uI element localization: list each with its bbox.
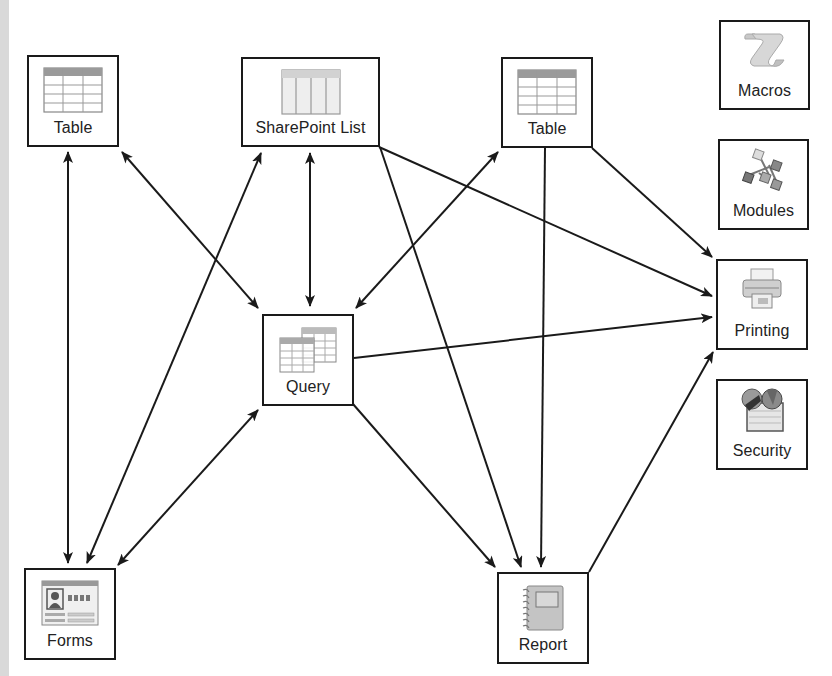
sharepoint-list-icon <box>243 69 378 115</box>
edge-forms-query <box>118 410 258 565</box>
edge-table-right-report <box>541 148 545 567</box>
form-icon <box>26 580 114 626</box>
node-label: Modules <box>733 202 794 220</box>
modules-icon <box>720 147 807 191</box>
node-label: Printing <box>734 322 789 340</box>
scroll-icon <box>721 28 808 72</box>
node-query[interactable]: Query <box>262 314 354 406</box>
node-modules[interactable]: Modules <box>718 139 809 230</box>
node-label: Macros <box>738 82 791 100</box>
table-icon <box>29 67 117 113</box>
edge-query-printing <box>354 317 712 358</box>
node-label: Table <box>528 120 567 138</box>
node-label: Report <box>519 636 568 654</box>
table-icon <box>503 69 591 115</box>
node-label: Security <box>733 442 792 460</box>
node-security[interactable]: Security <box>716 379 808 470</box>
edge-sharepoint-forms <box>87 153 261 563</box>
node-printing[interactable]: Printing <box>716 259 808 350</box>
printer-icon <box>718 267 806 313</box>
security-icon <box>718 387 806 433</box>
node-report[interactable]: Report <box>497 572 589 664</box>
node-table-left[interactable]: Table <box>27 55 119 147</box>
edge-sharepoint-report <box>380 147 521 567</box>
report-icon <box>499 584 587 632</box>
node-label: Query <box>286 378 330 396</box>
node-label: Forms <box>47 632 93 650</box>
connector-arrows <box>0 0 832 676</box>
node-macros[interactable]: Macros <box>719 20 810 110</box>
node-label: SharePoint List <box>255 119 365 137</box>
node-table-right[interactable]: Table <box>501 57 593 148</box>
edge-table-right-printing <box>592 148 712 257</box>
edge-report-printing <box>589 352 713 572</box>
node-label: Table <box>54 119 93 137</box>
edge-table-left-query <box>122 152 258 308</box>
node-forms[interactable]: Forms <box>24 568 116 660</box>
query-icon <box>264 326 352 374</box>
node-sharepoint-list[interactable]: SharePoint List <box>241 57 380 147</box>
